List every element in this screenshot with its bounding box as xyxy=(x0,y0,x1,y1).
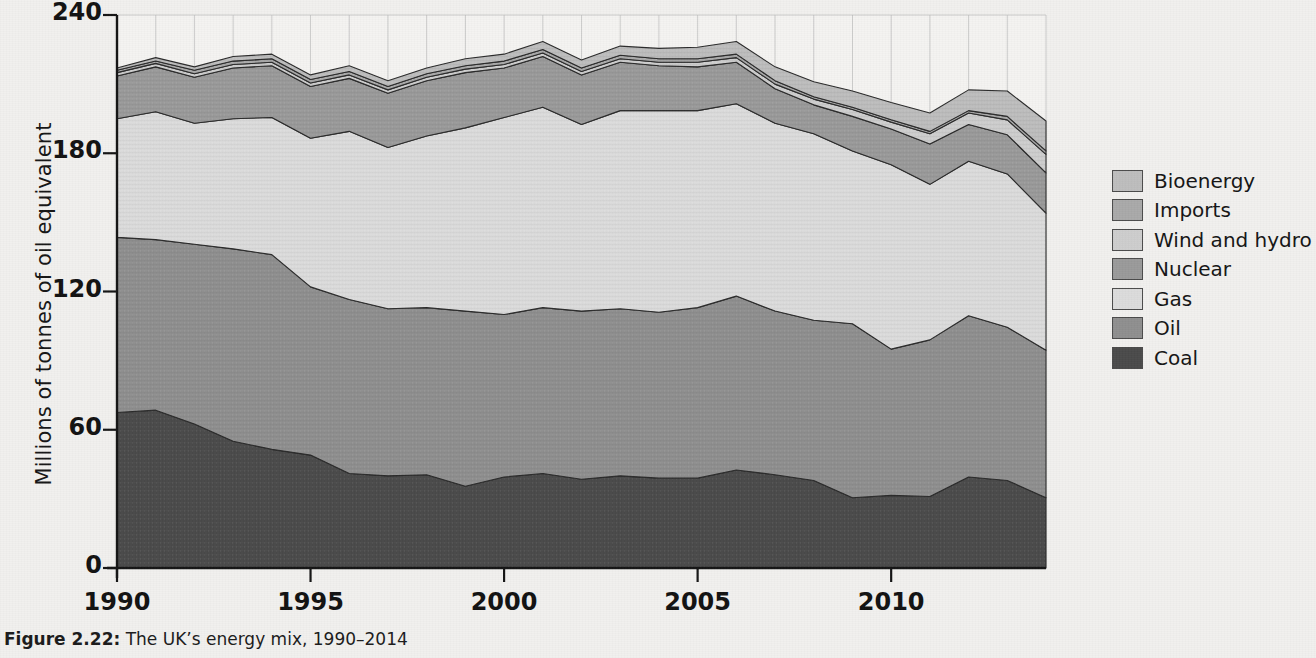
legend-label: Nuclear xyxy=(1154,259,1231,279)
legend-swatch-icon xyxy=(1112,347,1143,369)
legend-swatch-icon xyxy=(1112,288,1143,310)
legend-item-wind-and-hydro[interactable]: Wind and hydro xyxy=(1112,225,1312,255)
x-tick-label-2005: 2005 xyxy=(638,588,758,616)
x-tick-label-2010: 2010 xyxy=(831,588,951,616)
caption-label: Figure 2.22: xyxy=(4,629,120,649)
legend-item-gas[interactable]: Gas xyxy=(1112,284,1312,314)
legend-item-imports[interactable]: Imports xyxy=(1112,196,1312,226)
legend-swatch-icon xyxy=(1112,170,1143,192)
area-layers xyxy=(117,41,1046,568)
legend-label: Bioenergy xyxy=(1154,171,1255,191)
legend-label: Wind and hydro xyxy=(1154,230,1312,250)
legend-item-coal[interactable]: Coal xyxy=(1112,343,1312,373)
legend-swatch-icon xyxy=(1112,199,1143,221)
legend-item-nuclear[interactable]: Nuclear xyxy=(1112,255,1312,285)
x-tick-label-1995: 1995 xyxy=(251,588,371,616)
legend-label: Oil xyxy=(1154,318,1181,338)
legend-swatch-icon xyxy=(1112,317,1143,339)
legend-label: Gas xyxy=(1154,289,1192,309)
legend-label: Imports xyxy=(1154,200,1231,220)
legend-label: Coal xyxy=(1154,348,1198,368)
figure-container: Millions of tonnes of oil equivalent 060… xyxy=(0,0,1316,658)
x-tick-label-2000: 2000 xyxy=(444,588,564,616)
legend-swatch-icon xyxy=(1112,229,1143,251)
legend-item-bioenergy[interactable]: Bioenergy xyxy=(1112,166,1312,196)
caption-text: The UK’s energy mix, 1990–2014 xyxy=(120,629,408,649)
x-tick-label-1990: 1990 xyxy=(57,588,177,616)
figure-caption: Figure 2.22: The UK’s energy mix, 1990–2… xyxy=(4,629,408,649)
chart-legend: BioenergyImportsWind and hydroNuclearGas… xyxy=(1112,166,1312,373)
legend-item-oil[interactable]: Oil xyxy=(1112,314,1312,344)
legend-swatch-icon xyxy=(1112,258,1143,280)
